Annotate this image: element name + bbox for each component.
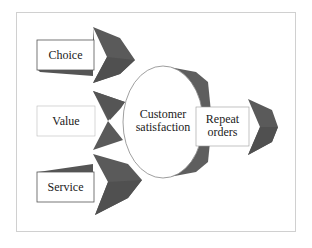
label-center: Customer satisfaction xyxy=(123,108,203,134)
label-service: Service xyxy=(37,181,94,194)
label-center-line2: satisfaction xyxy=(123,121,203,134)
label-output: Repeat orders xyxy=(196,113,249,139)
label-value: Value xyxy=(37,115,95,128)
label-output-line2: orders xyxy=(196,126,249,139)
label-choice: Choice xyxy=(37,49,94,62)
